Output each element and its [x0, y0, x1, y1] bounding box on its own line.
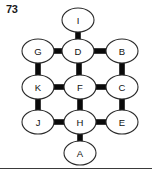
node-ellipse[interactable] — [106, 75, 138, 99]
graph-node-h[interactable]: H — [64, 110, 96, 134]
graph-node-a[interactable]: A — [64, 141, 96, 165]
graph-edge — [77, 62, 82, 77]
graph-edge — [36, 62, 41, 77]
graph-node-b[interactable]: B — [106, 39, 138, 63]
graph-edge — [120, 98, 125, 112]
node-ellipse[interactable] — [22, 75, 54, 99]
node-ellipse[interactable] — [64, 110, 96, 134]
graph-node-d[interactable]: D — [62, 39, 94, 63]
graph-node-i[interactable]: I — [62, 8, 94, 32]
node-ellipse[interactable] — [106, 110, 138, 134]
nodes-layer: IGDBKFCJHEA — [22, 8, 138, 165]
node-ellipse[interactable] — [64, 141, 96, 165]
graph-edge — [93, 49, 108, 54]
node-ellipse[interactable] — [64, 75, 96, 99]
node-ellipse[interactable] — [62, 39, 94, 63]
graph-node-c[interactable]: C — [106, 75, 138, 99]
graph-node-k[interactable]: K — [22, 75, 54, 99]
node-ellipse[interactable] — [106, 39, 138, 63]
node-ellipse[interactable] — [22, 39, 54, 63]
graph-edge — [36, 98, 41, 112]
node-ellipse[interactable] — [22, 110, 54, 134]
figure-root: 73 IGDBKFCJHEA — [0, 0, 152, 172]
graph-node-f[interactable]: F — [64, 75, 96, 99]
bottom-divider-rule — [0, 168, 152, 169]
graph-edge — [78, 98, 83, 112]
node-ellipse[interactable] — [62, 8, 94, 32]
graph-node-g[interactable]: G — [22, 39, 54, 63]
graph-diagram: IGDBKFCJHEA — [0, 0, 152, 172]
graph-edge — [120, 62, 125, 77]
graph-node-j[interactable]: J — [22, 110, 54, 134]
graph-node-e[interactable]: E — [106, 110, 138, 134]
